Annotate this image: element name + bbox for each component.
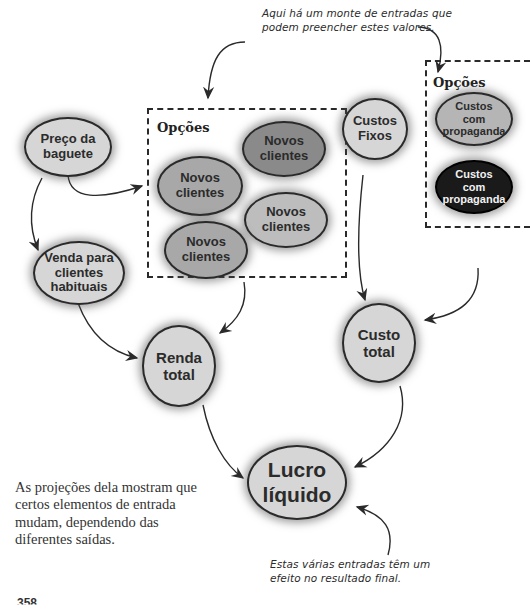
annotation-bottom: Estas várias entradas têm um efeito no r… xyxy=(270,557,430,585)
caption-line-2: certos elementos de entrada xyxy=(15,496,197,513)
arrow-venda-to-renda xyxy=(78,303,137,358)
arrow-opcoes-to-renda xyxy=(220,282,245,333)
node-label: Novos xyxy=(260,134,308,149)
caption-text: As projeções dela mostram que certos ele… xyxy=(15,479,197,549)
options-box-title-left: Opções xyxy=(157,120,210,135)
node-label: propaganda xyxy=(443,193,506,206)
arrow-custo-to-lucro xyxy=(355,386,403,467)
node-label: Custo xyxy=(358,326,401,343)
node-custos-propaganda-1: Custoscompropaganda xyxy=(435,92,513,146)
node-label: Renda xyxy=(156,349,202,366)
node-label: Custos xyxy=(443,100,506,113)
node-preco-baguete: Preço dabaguete xyxy=(24,117,112,177)
node-label: clientes xyxy=(262,220,310,235)
node-label: Preço da xyxy=(41,132,96,147)
node-label: Custos xyxy=(443,168,506,181)
arrow-renda-to-lucro xyxy=(203,405,243,478)
annotation-bottom-line-1: Estas várias entradas têm um xyxy=(270,557,430,571)
node-label: líquido xyxy=(263,483,332,507)
node-label: Custos xyxy=(353,114,397,129)
options-box-title-right: Opções xyxy=(433,75,486,90)
node-label: habituais xyxy=(44,280,113,295)
node-renda-total: Rendatotal xyxy=(142,325,216,407)
caption-line-1: As projeções dela mostram que xyxy=(15,479,197,496)
node-label: clientes xyxy=(44,266,113,281)
node-custos-fixos: CustosFixos xyxy=(342,98,408,160)
node-novos-clientes-2: Novosclientes xyxy=(242,121,326,177)
caption-line-3: mudam, dependendo das xyxy=(15,514,197,531)
node-novos-clientes-3: Novosclientes xyxy=(244,192,328,248)
node-label: Novos xyxy=(182,235,230,250)
node-novos-clientes-1: Novosclientes xyxy=(157,156,243,216)
node-label: Venda para xyxy=(44,251,113,266)
page-number: 358 xyxy=(17,596,37,609)
node-label: Fixos xyxy=(353,129,397,144)
annotation-bottom-line-2: efeito no resultado final. xyxy=(270,571,430,585)
node-novos-clientes-4: Novosclientes xyxy=(164,221,248,279)
node-label: total xyxy=(156,366,202,383)
node-label: Novos xyxy=(176,171,224,186)
node-label: clientes xyxy=(176,186,224,201)
node-custos-propaganda-2: Custoscompropaganda xyxy=(435,160,513,214)
arrow-propaganda-to-custo xyxy=(425,268,478,320)
annotation-top: Aqui há um monte de entradas que podem p… xyxy=(262,6,452,34)
node-label: Lucro xyxy=(263,458,332,482)
annotation-top-line-2: podem preencher estes valores. xyxy=(262,20,452,34)
node-venda-clientes-habituais: Venda paraclienteshabituais xyxy=(33,241,125,305)
node-lucro-liquido: Lucrolíquido xyxy=(247,445,347,520)
node-label: propaganda xyxy=(443,125,506,138)
arrow-preco-to-opcoes xyxy=(68,175,142,195)
node-custo-total: Custototal xyxy=(342,303,416,383)
node-label: clientes xyxy=(182,250,230,265)
caption-line-4: diferentes saídas. xyxy=(15,531,197,548)
node-label: total xyxy=(358,343,401,360)
annotation-arrow-bottom xyxy=(357,507,390,555)
node-label: clientes xyxy=(260,149,308,164)
arrow-preco-to-venda xyxy=(32,178,42,250)
node-label: baguete xyxy=(41,147,96,162)
arrow-fixos-to-custo xyxy=(359,175,365,300)
annotation-top-line-1: Aqui há um monte de entradas que xyxy=(262,6,452,20)
node-label: com xyxy=(443,181,506,194)
node-label: com xyxy=(443,113,506,126)
annotation-arrow-left xyxy=(208,42,245,98)
node-label: Novos xyxy=(262,205,310,220)
